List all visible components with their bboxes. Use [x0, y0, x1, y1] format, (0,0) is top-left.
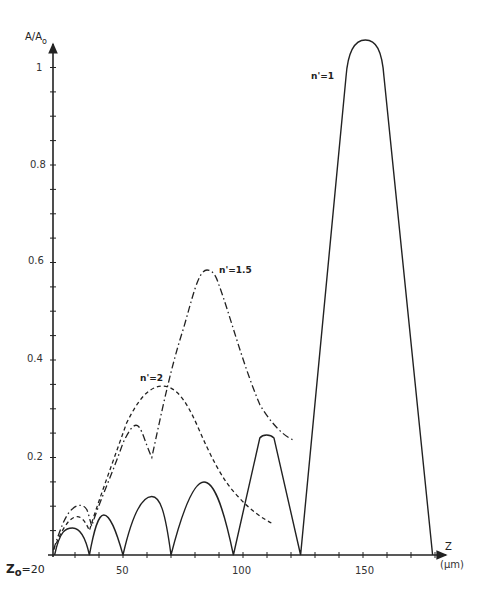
- curve-label-n1: n'=1: [311, 71, 334, 81]
- figure-caption-cutoff: [95, 584, 395, 592]
- amplitude-chart: 1 0.8 0.6 0.4 0.2 A/Ao 50 100 150 Zo=20 …: [0, 0, 478, 592]
- x-tick-label: 150: [355, 565, 374, 576]
- x-tick-label: 100: [232, 565, 251, 576]
- x-axis-title: Z: [445, 541, 452, 552]
- y-tick-label: 0.2: [27, 451, 43, 462]
- y-tick-label: 1: [36, 62, 42, 73]
- y-tick-label: 0.4: [27, 353, 43, 364]
- curve-label-n15: n'=1.5: [219, 265, 252, 275]
- series-n15-dashdot: [53, 270, 293, 550]
- y-tick-label: 0.8: [30, 159, 46, 170]
- y-tick-label: 0.6: [28, 255, 44, 266]
- series-n1-solid: [55, 40, 433, 555]
- x-tick-label: 50: [116, 565, 129, 576]
- x-axis-unit: (µm): [440, 559, 464, 570]
- curve-label-n2: n'=2: [140, 373, 163, 383]
- x-origin-label: Zo=20: [6, 562, 45, 578]
- y-axis-title: A/Ao: [25, 31, 47, 46]
